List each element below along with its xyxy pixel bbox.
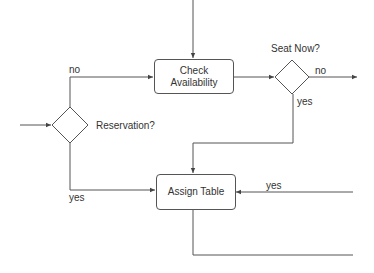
check-availability-node: Check Availability [154, 59, 234, 94]
edge-seatnow-yes [193, 94, 293, 173]
edge-reservation-yes [70, 143, 155, 190]
seat-now-no-label: no [315, 65, 326, 76]
edge-reservation-no [70, 77, 153, 107]
reservation-label: Reservation? [96, 120, 155, 131]
connectors-layer [0, 0, 374, 273]
flowchart-canvas: Check Availability Assign Table Seat Now… [0, 0, 374, 273]
check-availability-label-1: Check [170, 65, 217, 77]
external-yes-label: yes [266, 180, 282, 191]
seat-now-yes-label: yes [297, 96, 313, 107]
reservation-diamond [52, 107, 88, 143]
reservation-no-label: no [69, 64, 80, 75]
check-availability-label-2: Availability [170, 77, 217, 89]
edge-assign-out [193, 209, 353, 255]
seat-now-label: Seat Now? [271, 43, 320, 54]
assign-table-node: Assign Table [156, 174, 236, 210]
reservation-yes-label: yes [69, 192, 85, 203]
seat-now-diamond [275, 60, 309, 94]
assign-table-label: Assign Table [168, 186, 225, 198]
